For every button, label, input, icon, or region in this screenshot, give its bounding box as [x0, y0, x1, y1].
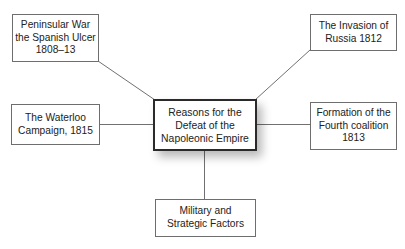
node-label: The Waterloo Campaign, 1815	[18, 112, 93, 137]
connector-peninsular	[98, 61, 155, 100]
node-waterloo-campaign: The Waterloo Campaign, 1815	[11, 104, 100, 145]
mind-map-diagram: Peninsular War the Spanish Ulcer 1808–13…	[0, 0, 405, 249]
node-label: The Invasion of Russia 1812	[319, 20, 389, 45]
node-label: Peninsular War the Spanish Ulcer 1808–13	[15, 19, 95, 57]
node-peninsular-war: Peninsular War the Spanish Ulcer 1808–13	[12, 14, 99, 62]
center-topic-label: Reasons for the Defeat of the Napoleonic…	[161, 106, 249, 145]
node-fourth-coalition: Formation of the Fourth coalition 1813	[310, 102, 397, 150]
connector-russia	[255, 50, 310, 100]
node-center-topic: Reasons for the Defeat of the Napoleonic…	[153, 99, 257, 151]
node-invasion-of-russia: The Invasion of Russia 1812	[310, 14, 397, 51]
node-label: Formation of the Fourth coalition 1813	[316, 107, 390, 145]
node-military-strategic-factors: Military and Strategic Factors	[155, 199, 256, 237]
node-label: Military and Strategic Factors	[167, 205, 244, 230]
